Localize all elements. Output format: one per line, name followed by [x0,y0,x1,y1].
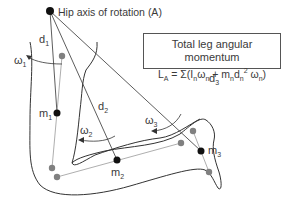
ankle-joint-point-shank [178,140,184,146]
m2-point [114,157,121,164]
leg-diagram: Hip axis of rotation (A) d1 d2 d3 ω1 ω2 … [0,0,293,208]
omega2-label: ω2 [80,124,93,138]
angular-momentum-formula: LA = Σ(Inωn + mndn2 ωn) [144,64,280,86]
omega1-label: ω1 [14,54,27,68]
d2-label: d2 [98,100,108,114]
toe-point [206,169,212,175]
hip-label: Hip axis of rotation (A) [58,6,162,18]
omega1-arrow [28,57,62,64]
m1-point [54,110,61,117]
omega3-arrowhead [151,128,157,134]
ankle-joint-point-foot [190,128,196,134]
m3-label: m3 [208,144,221,158]
d1-label: d1 [39,33,49,47]
box-title: Total leg angular momentum [144,38,280,64]
m1-label: m1 [39,107,52,121]
knee-joint-point-thigh [49,165,55,171]
angular-momentum-box: Total leg angular momentum LA = Σ(Inωn +… [143,33,281,69]
m2-label: m2 [111,166,124,180]
m3-point [198,148,205,155]
hip-axis-point [46,7,54,15]
hip-joint-point [59,53,65,59]
d1-line [50,11,57,113]
omega3-label: ω3 [145,114,158,128]
omega2-arrowhead [78,137,84,143]
omega2-arrow [80,136,115,141]
knee-joint-point-shank [54,174,60,180]
